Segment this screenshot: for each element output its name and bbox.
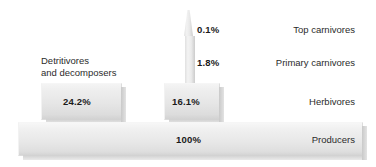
value-label-detritivores: 24.2% [63, 96, 91, 107]
value-label-primary-carnivores: 1.8% [197, 57, 219, 68]
value-label-producers: 100% [176, 134, 201, 145]
value-label-top-carnivores: 0.1% [197, 24, 219, 35]
bar-top-carnivores [184, 10, 193, 36]
side-label-detritivores-line2: and decomposers [41, 67, 117, 79]
energy-pyramid-diagram: 0.1% 1.8% 16.1% 24.2% 100% Top carnivore… [0, 0, 376, 167]
tier-label-herbivores: Herbivores [309, 96, 355, 107]
tier-label-top-carnivores: Top carnivores [293, 24, 355, 35]
bar-primary-carnivores [185, 36, 195, 83]
side-label-detritivores: Detritivores and decomposers [41, 55, 117, 79]
tier-label-producers: Producers [312, 134, 355, 145]
side-label-detritivores-line1: Detritivores [41, 55, 117, 67]
tier-label-primary-carnivores: Primary carnivores [276, 57, 355, 68]
value-label-herbivores: 16.1% [172, 96, 200, 107]
